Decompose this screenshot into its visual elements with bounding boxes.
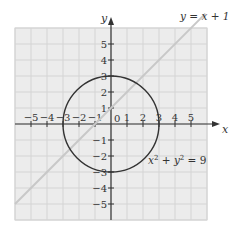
- svg-text:−4: −4: [92, 183, 107, 194]
- coordinate-plot: −5−4−3−2−112345−5−4−3−2−112345 y x 0 y =…: [0, 0, 234, 236]
- svg-text:4: 4: [101, 55, 107, 66]
- line-equation: y = x + 1: [179, 10, 229, 22]
- svg-text:−2: −2: [72, 112, 87, 123]
- svg-text:−1: −1: [92, 135, 107, 146]
- eq-rest: = 9: [184, 154, 206, 166]
- svg-text:−5: −5: [92, 199, 107, 210]
- svg-text:5: 5: [101, 39, 107, 50]
- svg-text:2: 2: [101, 87, 107, 98]
- svg-text:2: 2: [140, 112, 146, 123]
- line-equation-label: y = x + 1: [179, 10, 229, 22]
- x-axis-label: x: [222, 123, 229, 136]
- svg-text:−4: −4: [40, 112, 55, 123]
- svg-text:1: 1: [124, 112, 130, 123]
- origin-label: 0: [114, 113, 120, 124]
- eq-plus: +: [158, 154, 173, 166]
- svg-text:−2: −2: [92, 151, 107, 162]
- svg-text:4: 4: [172, 112, 178, 123]
- svg-text:5: 5: [188, 112, 194, 123]
- y-axis-label: y: [100, 12, 108, 25]
- svg-text:−5: −5: [24, 112, 39, 123]
